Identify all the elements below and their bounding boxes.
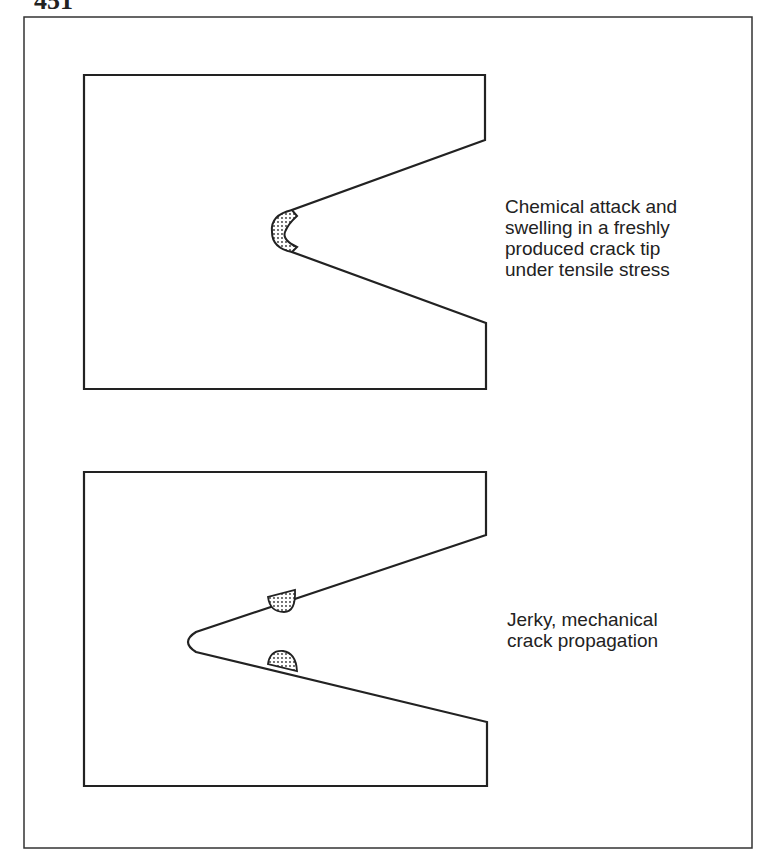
swelling-zone (272, 210, 297, 252)
caption-chemical-attack: Chemical attack and swelling in a freshl… (505, 196, 677, 280)
caption-line: Jerky, mechanical (507, 609, 658, 630)
caption-line: crack propagation (507, 630, 658, 651)
attack-zone-upper (268, 590, 295, 612)
caption-line: under tensile stress (505, 259, 677, 280)
crack-diagram (0, 0, 764, 861)
caption-mechanical-propagation: Jerky, mechanical crack propagation (507, 609, 658, 651)
caption-line: produced crack tip (505, 238, 677, 259)
upper-specimen (84, 75, 486, 389)
outer-frame (24, 17, 752, 848)
caption-line: Chemical attack and (505, 196, 677, 217)
lower-specimen (84, 472, 487, 786)
caption-line: swelling in a freshly (505, 217, 677, 238)
attack-zone-lower (268, 651, 297, 671)
